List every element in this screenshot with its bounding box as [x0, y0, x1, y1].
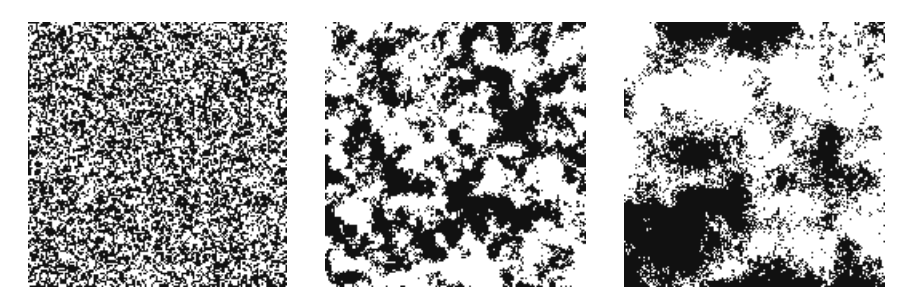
texture-panel-coarse	[624, 22, 885, 287]
texture-panel-medium	[325, 22, 586, 287]
texture-panel-fine	[28, 22, 287, 287]
figure-three-panel-texture	[0, 0, 913, 299]
